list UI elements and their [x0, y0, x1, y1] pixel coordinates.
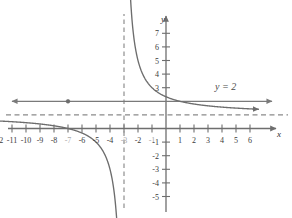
- x-tick-label: -11: [7, 136, 17, 145]
- y-tick-label: 4: [155, 70, 159, 79]
- y-tick-label: -3: [152, 165, 159, 174]
- x-tick-label: -5: [93, 136, 100, 145]
- x-tick-label: 4: [220, 136, 224, 145]
- intersection-point: [66, 99, 70, 103]
- y-tick-label: -5: [152, 193, 159, 202]
- y-tick-label: 5: [155, 57, 159, 66]
- x-tick-label: -7: [65, 136, 72, 145]
- x-tick-label: -10: [21, 136, 32, 145]
- y-tick-label: 3: [155, 84, 159, 93]
- x-tick-label: -4: [107, 136, 114, 145]
- y-tick-label: -1: [152, 138, 159, 147]
- x-tick-label: 3: [206, 136, 210, 145]
- y-tick-label: 7: [155, 29, 159, 38]
- point-group: [66, 99, 70, 103]
- x-tick-label: -9: [37, 136, 44, 145]
- x-tick-label: 1: [178, 136, 182, 145]
- x-tick-label: -6: [79, 136, 86, 145]
- y-tick-label: -4: [152, 179, 159, 188]
- x-tick-label: -12: [0, 136, 3, 145]
- x-tick-label: 5: [234, 136, 238, 145]
- y-tick-label: 6: [155, 43, 159, 52]
- x-axis-label: x: [276, 129, 281, 139]
- y-tick-label: -2: [152, 152, 159, 161]
- x-tick-label: -2: [135, 136, 142, 145]
- x-tick-label: -8: [51, 136, 58, 145]
- coordinate-plane: -12-11-10-9-8-7-6-5-4-3-2-1123456 76543-…: [0, 0, 292, 218]
- y-axis-label: y: [160, 14, 165, 24]
- line-equation-label: y = 2: [214, 81, 236, 92]
- x-tick-label: 6: [248, 136, 252, 145]
- x-tick-label: 2: [192, 136, 196, 145]
- graph-figure: -12-11-10-9-8-7-6-5-4-3-2-1123456 76543-…: [0, 0, 292, 218]
- x-tick-label: -3: [121, 136, 128, 145]
